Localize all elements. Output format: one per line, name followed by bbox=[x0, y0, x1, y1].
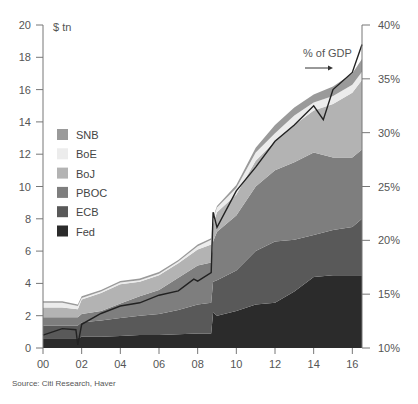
legend-item-pboc: PBOC bbox=[57, 187, 107, 199]
legend-label: Fed bbox=[76, 226, 95, 238]
x-tick-label: 06 bbox=[153, 358, 165, 370]
y-left-tick-label: 2 bbox=[25, 310, 31, 322]
gdp-annotation: % of GDP bbox=[303, 47, 352, 59]
y-left-tick-label: 16 bbox=[19, 84, 31, 96]
legend-item-snb: SNB bbox=[57, 129, 99, 141]
left-axis-unit: $ tn bbox=[53, 21, 71, 33]
legend-item-boj: BoJ bbox=[57, 168, 95, 180]
area-series bbox=[43, 59, 362, 348]
x-tick-label: 14 bbox=[308, 358, 320, 370]
source-note: Source: Citi Research, Haver bbox=[12, 379, 116, 388]
legend-swatch bbox=[57, 226, 68, 237]
x-tick-label: 16 bbox=[346, 358, 358, 370]
legend-item-boe: BoE bbox=[57, 148, 97, 160]
legend-item-ecb: ECB bbox=[57, 206, 99, 218]
legend-swatch bbox=[57, 129, 68, 140]
y-right-tick-label: 15% bbox=[378, 288, 400, 300]
y-left-tick-label: 20 bbox=[19, 19, 31, 31]
legend-swatch bbox=[57, 206, 68, 217]
x-tick-label: 10 bbox=[230, 358, 242, 370]
legend-label: BoJ bbox=[76, 168, 95, 180]
legend-swatch bbox=[57, 168, 68, 179]
x-tick-label: 08 bbox=[192, 358, 204, 370]
legend: SNBBoEBoJPBOCECBFed bbox=[57, 129, 107, 238]
y-left-tick-label: 12 bbox=[19, 148, 31, 160]
y-left-tick-label: 6 bbox=[25, 245, 31, 257]
y-right-tick-label: 40% bbox=[378, 19, 400, 31]
x-tick-label: 00 bbox=[37, 358, 49, 370]
y-right-tick-label: 10% bbox=[378, 342, 400, 354]
y-right-tick-label: 25% bbox=[378, 181, 400, 193]
legend-item-fed: Fed bbox=[57, 226, 95, 238]
x-tick-label: 12 bbox=[269, 358, 281, 370]
legend-label: PBOC bbox=[76, 187, 107, 199]
y-left-tick-label: 14 bbox=[19, 116, 31, 128]
y-left-tick-label: 0 bbox=[25, 342, 31, 354]
y-left-tick-label: 18 bbox=[19, 51, 31, 63]
legend-label: ECB bbox=[76, 206, 99, 218]
y-left-tick-label: 10 bbox=[19, 181, 31, 193]
x-tick-label: 04 bbox=[114, 358, 126, 370]
y-left-tick-label: 4 bbox=[25, 277, 31, 289]
legend-swatch bbox=[57, 187, 68, 198]
legend-label: BoE bbox=[76, 148, 97, 160]
arrow-right-icon bbox=[305, 66, 333, 71]
y-left-tick-label: 8 bbox=[25, 213, 31, 225]
legend-label: SNB bbox=[76, 129, 99, 141]
legend-swatch bbox=[57, 148, 68, 159]
y-right-tick-label: 20% bbox=[378, 234, 400, 246]
y-right-tick-label: 35% bbox=[378, 73, 400, 85]
y-right-tick-label: 30% bbox=[378, 127, 400, 139]
stacked-area-chart: 0246810121416182010%15%20%25%30%35%40%00… bbox=[0, 0, 418, 404]
x-tick-label: 02 bbox=[76, 358, 88, 370]
